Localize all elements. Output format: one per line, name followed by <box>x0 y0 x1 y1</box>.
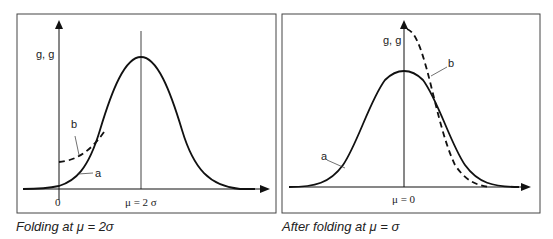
mean-label: μ = 0 <box>392 193 416 205</box>
y-axis-arrow-icon <box>55 20 63 29</box>
curve-b <box>407 29 489 187</box>
label-a: a <box>321 150 328 162</box>
y-axis-label: g, g <box>383 34 401 46</box>
label-b-leader <box>431 67 447 76</box>
right-caption: After folding at μ = σ <box>282 219 399 234</box>
label-a: a <box>95 167 102 179</box>
origin-label: 0 <box>55 196 61 208</box>
left-chart-frame <box>17 14 276 213</box>
x-axis-arrow-icon <box>260 185 270 193</box>
left-chart: g, g b a 0 μ = 2 σ <box>0 0 280 239</box>
y-axis-label: g, g <box>36 48 54 60</box>
label-b: b <box>448 57 454 69</box>
right-chart: g, g b a μ = 0 <box>275 0 553 239</box>
label-b: b <box>71 118 77 130</box>
left-caption: Folding at μ = 2σ <box>16 219 114 234</box>
label-b-leader <box>75 136 79 155</box>
x-axis-arrow-icon <box>521 183 531 191</box>
label-a-leader <box>327 160 345 168</box>
curve-a <box>23 57 255 189</box>
mean-label: μ = 2 σ <box>125 196 157 208</box>
y-axis-arrow-icon <box>400 20 408 29</box>
